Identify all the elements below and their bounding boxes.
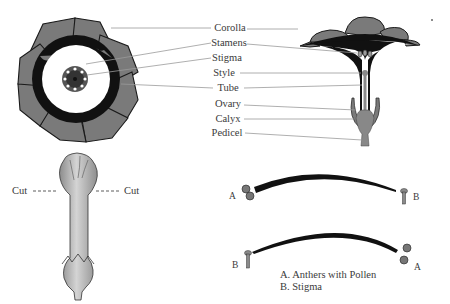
speck bbox=[431, 19, 433, 21]
stigma-bottom bbox=[245, 251, 252, 269]
stigma-center bbox=[62, 66, 88, 92]
label-stamens: Stamens bbox=[211, 37, 247, 48]
cut-label-left: Cut bbox=[12, 185, 27, 196]
label-corolla: Corolla bbox=[214, 22, 246, 33]
label-stigma: Stigma bbox=[212, 52, 242, 63]
label-bottom-a: A bbox=[414, 262, 421, 272]
pollination-top: A B bbox=[229, 174, 419, 204]
flower-diagram: Corolla Stamens Stigma Style Tube Ovary … bbox=[0, 0, 450, 304]
section-ovary bbox=[356, 110, 374, 146]
label-style: Style bbox=[213, 67, 235, 78]
flower-top-view bbox=[18, 18, 138, 142]
label-tube: Tube bbox=[217, 82, 239, 93]
flower-bud: Cut Cut bbox=[12, 153, 139, 300]
label-top-a: A bbox=[229, 191, 236, 201]
flower-cross-section bbox=[300, 17, 420, 146]
legend-stigma: B. Stigma bbox=[280, 281, 322, 292]
section-stamens bbox=[358, 50, 372, 57]
label-top-b: B bbox=[413, 192, 419, 202]
cut-label-right: Cut bbox=[124, 185, 139, 196]
label-bottom-b: B bbox=[232, 260, 238, 270]
label-calyx: Calyx bbox=[215, 113, 241, 124]
stigma-top bbox=[401, 189, 408, 205]
label-pedicel: Pedicel bbox=[212, 127, 243, 138]
anther-top bbox=[242, 185, 254, 200]
pollination-bottom: B A A. Anthers with Pollen B. Stigma bbox=[232, 233, 421, 292]
legend-anthers: A. Anthers with Pollen bbox=[280, 269, 377, 280]
anther-bottom bbox=[400, 244, 411, 264]
part-labels: Corolla Stamens Stigma Style Tube Ovary … bbox=[211, 22, 247, 138]
label-ovary: Ovary bbox=[215, 98, 242, 109]
